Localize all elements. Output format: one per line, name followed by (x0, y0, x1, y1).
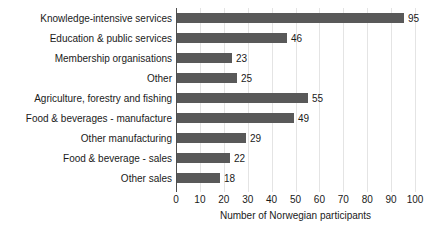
category-label: Other manufacturing (0, 133, 172, 144)
bar-row: Other25 (0, 68, 441, 88)
bar-row: Agriculture, forestry and fishing55 (0, 88, 441, 108)
bar-row: Membership organisations23 (0, 48, 441, 68)
bar (177, 153, 230, 163)
bar-container: 18 (177, 168, 235, 188)
x-axis-title: Number of Norwegian participants (176, 210, 415, 222)
bar (177, 73, 237, 83)
bar (177, 33, 287, 43)
category-label: Other (0, 73, 172, 84)
bar-container: 25 (177, 68, 252, 88)
category-label: Education & public services (0, 33, 172, 44)
bar-container: 22 (177, 148, 245, 168)
bar-row: Food & beverages - manufacture49 (0, 108, 441, 128)
bar-container: 95 (177, 8, 419, 28)
category-label: Other sales (0, 173, 172, 184)
bar-container: 46 (177, 28, 302, 48)
x-tick-label: 100 (407, 194, 424, 206)
bar (177, 13, 404, 23)
bar-row: Other manufacturing29 (0, 128, 441, 148)
category-label: Food & beverages - manufacture (0, 113, 172, 124)
bar-container: 23 (177, 48, 247, 68)
x-tick-label: 70 (338, 194, 349, 206)
bar-value-label: 25 (241, 73, 252, 84)
bar-value-label: 22 (234, 153, 245, 164)
bar-chart: Knowledge-intensive services95Education … (0, 0, 441, 239)
bar-container: 55 (177, 88, 323, 108)
bar-container: 29 (177, 128, 261, 148)
x-tick-label: 40 (266, 194, 277, 206)
x-tick-label: 30 (242, 194, 253, 206)
bar-row: Knowledge-intensive services95 (0, 8, 441, 28)
category-label: Agriculture, forestry and fishing (0, 93, 172, 104)
bar-value-label: 55 (312, 93, 323, 104)
category-label: Knowledge-intensive services (0, 13, 172, 24)
bar-value-label: 29 (250, 133, 261, 144)
bar-value-label: 95 (408, 13, 419, 24)
bar-container: 49 (177, 108, 309, 128)
bar-row: Other sales18 (0, 168, 441, 188)
x-tick-label: 60 (314, 194, 325, 206)
x-tick-label: 10 (194, 194, 205, 206)
bar-value-label: 46 (291, 33, 302, 44)
bar-rows: Knowledge-intensive services95Education … (0, 8, 441, 192)
bar-value-label: 23 (236, 53, 247, 64)
bar-row: Education & public services46 (0, 28, 441, 48)
x-tick-label: 0 (173, 194, 179, 206)
x-tick-label: 90 (386, 194, 397, 206)
bar (177, 93, 308, 103)
bar-value-label: 49 (298, 113, 309, 124)
bar (177, 113, 294, 123)
category-label: Membership organisations (0, 53, 172, 64)
category-label: Food & beverage - sales (0, 153, 172, 164)
bar (177, 173, 220, 183)
bar-row: Food & beverage - sales22 (0, 148, 441, 168)
bar-value-label: 18 (224, 173, 235, 184)
bar (177, 53, 232, 63)
bar (177, 133, 246, 143)
x-tick-label: 20 (218, 194, 229, 206)
x-axis-ticks: 0102030405060708090100 (176, 194, 415, 208)
x-tick-label: 50 (290, 194, 301, 206)
x-tick-label: 80 (362, 194, 373, 206)
